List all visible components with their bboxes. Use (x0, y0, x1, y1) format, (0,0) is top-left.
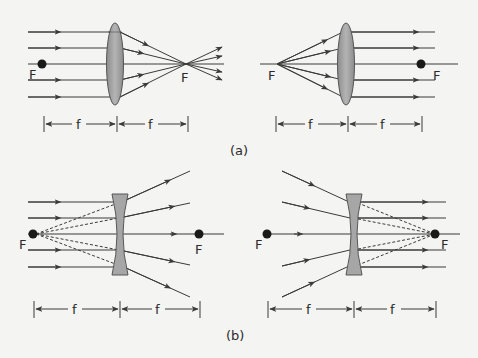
focal-point-dot (263, 230, 272, 239)
dist-label-2: f (155, 302, 160, 317)
focal-length-measure (268, 301, 436, 318)
focal-point-dot (29, 230, 38, 239)
convex-lens (107, 23, 124, 105)
caption-b: (b) (226, 328, 244, 343)
focal-label-right: F (195, 242, 202, 257)
panel-a-left (28, 32, 224, 97)
focal-label-right: F (181, 70, 188, 85)
dist-label-2: f (148, 117, 153, 132)
focal-label-left: F (29, 67, 36, 82)
focal-label-right: F (433, 68, 440, 83)
dist-label-2: f (390, 302, 395, 317)
caption-a: (a) (230, 143, 248, 158)
focal-point-dot (195, 230, 204, 239)
focal-length-measure (34, 301, 200, 318)
dist-label-2: f (380, 117, 385, 132)
panel-a-right (260, 32, 458, 97)
focal-label-right: F (441, 237, 448, 252)
focal-length-measure (276, 116, 422, 132)
dist-label-1: f (76, 117, 81, 132)
focal-label-left: F (255, 237, 262, 252)
focal-label-left: F (268, 68, 275, 83)
focal-label-left: F (19, 237, 26, 252)
focal-length-measure (44, 116, 188, 132)
dist-label-1: f (72, 302, 77, 317)
focal-point-dot (417, 60, 426, 69)
lens-ray-diagram: F F f f (0, 0, 478, 358)
diagram-canvas: F F f f (0, 0, 478, 358)
dist-label-1: f (306, 302, 311, 317)
focal-point-dot (431, 230, 440, 239)
dist-label-1: f (308, 117, 313, 132)
focal-point-dot (38, 60, 47, 69)
convex-lens (338, 23, 355, 105)
